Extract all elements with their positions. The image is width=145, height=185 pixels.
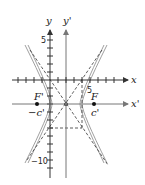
tick-label-y-5: 5 — [41, 36, 46, 45]
y-axis-label: y — [45, 15, 52, 26]
hyperbola-diagram: y y' x x' 5 −10 5 F' F −c' c' — [0, 0, 145, 185]
focus-right — [92, 102, 96, 106]
x-prime-axis-label: x' — [131, 98, 139, 109]
x-axis-label: x — [131, 74, 137, 85]
tick-label-y-neg10: −10 — [31, 157, 48, 166]
focus-left-label: F' — [33, 91, 44, 102]
y-prime-axis-label: y' — [62, 15, 71, 26]
focus-left-coord: −c' — [28, 107, 45, 118]
focus-right-label: F — [90, 91, 99, 102]
focus-right-coord: c' — [91, 107, 99, 118]
x-axis — [12, 77, 128, 83]
focus-left — [35, 102, 39, 106]
